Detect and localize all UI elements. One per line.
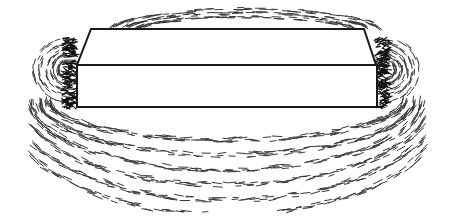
magnet-front-face [77, 65, 377, 107]
magnet-top-face [77, 29, 376, 65]
illustration-canvas [0, 0, 451, 217]
bar-magnet [77, 29, 377, 107]
magnet-field-illustration [0, 0, 451, 217]
